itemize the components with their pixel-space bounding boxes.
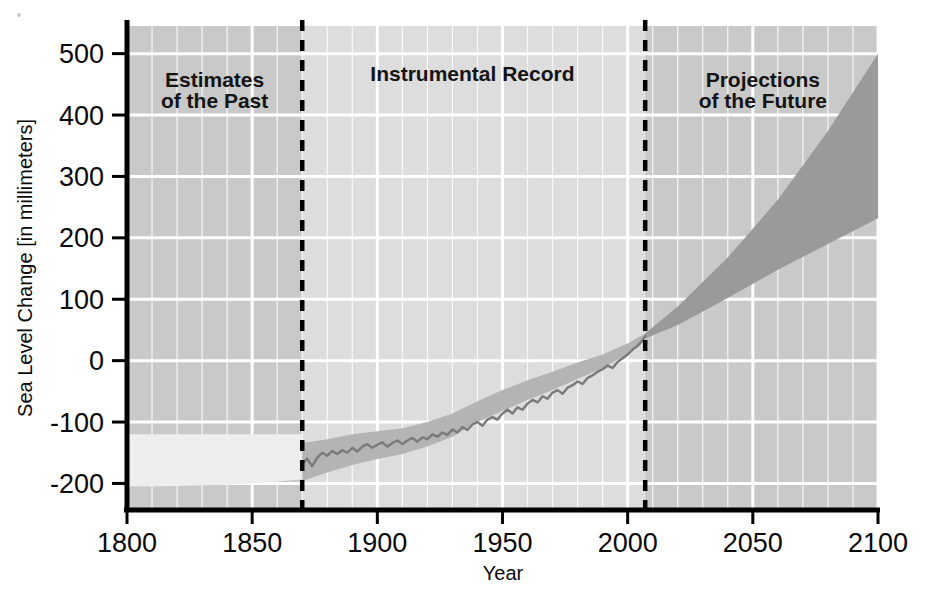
annotation-estimates-line2: of the Past xyxy=(161,89,268,112)
y-tick-label: 400 xyxy=(59,101,104,131)
x-axis-tick-labels: 1800185019001950200020502100 xyxy=(97,528,908,558)
x-tick-label: 2000 xyxy=(598,528,658,558)
y-tick-label: -200 xyxy=(50,469,104,499)
y-tick-label: 0 xyxy=(89,346,104,376)
sea-level-change-figure: -200-1000100200300400500 180018501900195… xyxy=(0,0,941,597)
x-tick-label: 2050 xyxy=(723,528,783,558)
annotation-instrumental-line1: Instrumental Record xyxy=(370,62,574,85)
y-axis-title: Sea Level Change [in millimeters] xyxy=(14,119,36,417)
y-tick-label: 100 xyxy=(59,285,104,315)
annotation-projections-line2: of the Future xyxy=(699,89,827,112)
x-tick-label: 1900 xyxy=(347,528,407,558)
y-tick-label: 300 xyxy=(59,162,104,192)
x-tick-label: 2100 xyxy=(848,528,908,558)
x-tick-label: 1850 xyxy=(222,528,282,558)
y-tick-label: -100 xyxy=(50,408,104,438)
x-tick-label: 1950 xyxy=(472,528,532,558)
x-axis-title: Year xyxy=(483,562,524,584)
chart-canvas: -200-1000100200300400500 180018501900195… xyxy=(0,0,941,597)
y-tick-label: 500 xyxy=(59,39,104,69)
scan-speck xyxy=(17,13,21,17)
x-tick-label: 1800 xyxy=(97,528,157,558)
y-tick-label: 200 xyxy=(59,223,104,253)
band-estimates-of-past xyxy=(127,434,302,486)
y-axis-tick-labels: -200-1000100200300400500 xyxy=(50,39,104,499)
